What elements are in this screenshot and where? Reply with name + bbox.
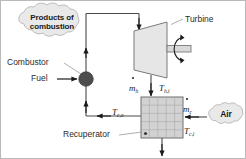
turbine-body[interactable]	[134, 22, 167, 78]
m-dot-cold-subscript: c	[190, 109, 192, 115]
T-cold-out-subscript: c,o	[117, 112, 123, 118]
diagram-canvas: Products of combustion Air Turbine Combu…	[0, 0, 246, 159]
label-T-cold-out: Tc,o	[112, 102, 123, 118]
m-dot-cold-symbol: m	[183, 104, 190, 114]
recuperator-body[interactable]	[141, 97, 183, 138]
cloud-label-products-of-combustion: Products of combustion	[17, 14, 87, 32]
leader-turbine	[171, 19, 183, 25]
leader-combustor	[64, 63, 81, 74]
label-fuel: Fuel	[31, 74, 48, 83]
m-dot-hot-subscript: h	[136, 88, 139, 94]
m-dot-hot-symbol: m	[129, 83, 136, 93]
leader-recuperator	[119, 132, 142, 135]
cloud-label-air: Air	[208, 110, 244, 120]
label-m-dot-cold: mc	[183, 99, 192, 115]
label-recuperator: Recuperator	[63, 130, 110, 139]
turbine-shaft	[167, 46, 191, 53]
cloud-air-line1: Air	[208, 110, 244, 120]
label-T-cold-in: Tc,i	[184, 121, 194, 137]
label-combustor: Combustor	[7, 58, 49, 67]
cloud-products-line2: combustion	[17, 23, 87, 32]
label-m-dot-hot: mh	[129, 78, 138, 94]
m-dot-hot-overdot	[132, 77, 134, 79]
T-cold-in-subscript: c,i	[189, 131, 194, 137]
label-turbine: Turbine	[185, 15, 214, 24]
label-T-hot-in: Th,i	[159, 78, 169, 94]
m-dot-cold-overdot	[186, 98, 188, 100]
T-hot-in-subscript: h,i	[164, 88, 169, 94]
piping-hot-loop	[86, 14, 141, 117]
recuperator-marker-dot	[144, 132, 147, 135]
